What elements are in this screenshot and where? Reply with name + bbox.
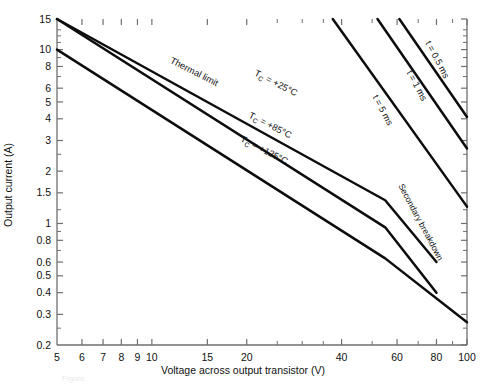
chart-container: 56789101520406080100 15108654321.510.80.… bbox=[0, 0, 487, 386]
y-tick-label: 0.8 bbox=[36, 234, 51, 246]
y-tick-label: 1.5 bbox=[36, 186, 51, 198]
y-tick-label: 10 bbox=[39, 43, 51, 55]
y-tick-label: 0.2 bbox=[36, 339, 51, 351]
chart-background bbox=[0, 0, 487, 386]
y-tick-label: 1 bbox=[45, 217, 51, 229]
x-tick-label: 7 bbox=[100, 351, 106, 363]
x-tick-label: 8 bbox=[118, 351, 124, 363]
y-tick-label: 0.3 bbox=[36, 308, 51, 320]
y-tick-label: 3 bbox=[45, 134, 51, 146]
soa-chart-svg: 56789101520406080100 15108654321.510.80.… bbox=[0, 0, 487, 386]
y-tick-label: 15 bbox=[39, 13, 51, 25]
y-tick-label: 0.6 bbox=[36, 256, 51, 268]
x-tick-label: 60 bbox=[391, 351, 403, 363]
y-tick-label: 0.4 bbox=[36, 286, 51, 298]
x-axis-title: Voltage across output transistor (V) bbox=[161, 364, 325, 376]
y-tick-label: 2 bbox=[45, 165, 51, 177]
y-tick-label: 0.5 bbox=[36, 269, 51, 281]
x-tick-label: 15 bbox=[202, 351, 214, 363]
y-tick-label: 5 bbox=[45, 96, 51, 108]
x-tick-label: 40 bbox=[336, 351, 348, 363]
x-tick-label: 100 bbox=[458, 351, 476, 363]
y-tick-label: 6 bbox=[45, 82, 51, 94]
x-tick-label: 5 bbox=[54, 351, 60, 363]
x-tick-label: 9 bbox=[135, 351, 141, 363]
x-tick-label: 10 bbox=[146, 351, 158, 363]
x-tick-label: 80 bbox=[431, 351, 443, 363]
figure-caption: Figure bbox=[62, 374, 85, 383]
y-axis-title: Output current (A) bbox=[2, 143, 14, 227]
x-tick-label: 6 bbox=[79, 351, 85, 363]
y-tick-label: 8 bbox=[45, 60, 51, 72]
x-tick-label: 20 bbox=[241, 351, 253, 363]
y-tick-label: 4 bbox=[45, 112, 51, 124]
